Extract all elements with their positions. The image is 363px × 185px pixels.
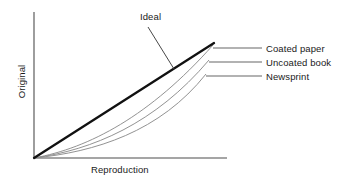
annotation-label-ideal: Ideal: [140, 11, 161, 22]
line-ideal: [34, 43, 214, 158]
y-axis-label: Original: [16, 52, 27, 112]
series-label-newsprint: Newsprint: [266, 71, 309, 82]
tone-reproduction-curve-figure: Coated paper Uncoated book Newsprint Ide…: [0, 0, 363, 185]
x-axis-label: Reproduction: [91, 164, 149, 175]
curve-uncoated-book: [34, 60, 209, 158]
series-label-coated-paper: Coated paper: [266, 43, 325, 54]
curve-newsprint: [34, 74, 206, 158]
series-label-uncoated-book: Uncoated book: [266, 57, 331, 68]
plot-area: [0, 0, 363, 185]
leader-line-ideal: [148, 27, 174, 69]
